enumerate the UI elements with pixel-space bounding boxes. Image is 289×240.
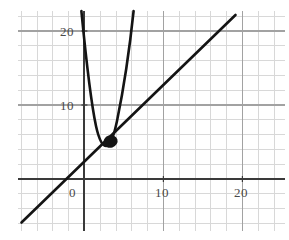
x-tick-label-20: 20 (234, 186, 248, 199)
x-tick-label-10: 10 (155, 186, 169, 199)
x-tick-label-0: 0 (69, 186, 76, 199)
y-tick-label-20: 20 (60, 25, 74, 38)
chart-figure: 0 10 20 10 20 (0, 0, 289, 240)
y-tick-label-10: 10 (60, 99, 74, 112)
plot-canvas (0, 0, 289, 240)
